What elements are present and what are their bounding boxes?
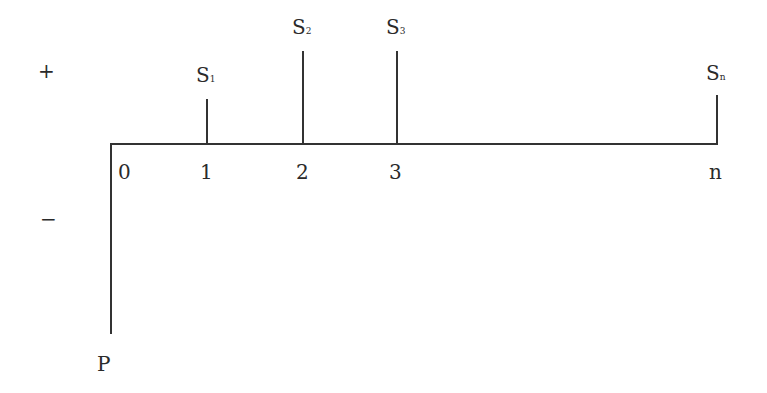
inflow-arrow-s2	[302, 51, 304, 144]
time-axis	[110, 143, 718, 145]
inflow-label-s2: S2	[292, 17, 311, 41]
period-label-3: 3	[389, 162, 402, 182]
period-label-1: 1	[200, 162, 213, 182]
cash-flow-diagram: + − P 0 1 2 3 n S1 S2 S3 Sn	[0, 0, 767, 393]
inflow-arrow-s1	[206, 99, 208, 144]
period-label-0: 0	[118, 162, 131, 182]
negative-sign: −	[40, 209, 57, 229]
inflow-arrow-sn	[716, 95, 718, 144]
inflow-arrow-s3	[396, 51, 398, 144]
inflow-label-s3: S3	[386, 17, 405, 41]
period-label-2: 2	[296, 162, 309, 182]
inflow-label-s1: S1	[196, 65, 215, 89]
outflow-arrow-p	[110, 143, 112, 334]
period-label-n: n	[709, 162, 722, 182]
positive-sign: +	[38, 61, 55, 81]
outflow-label-p: P	[97, 354, 110, 374]
inflow-label-sn: Sn	[706, 63, 726, 87]
